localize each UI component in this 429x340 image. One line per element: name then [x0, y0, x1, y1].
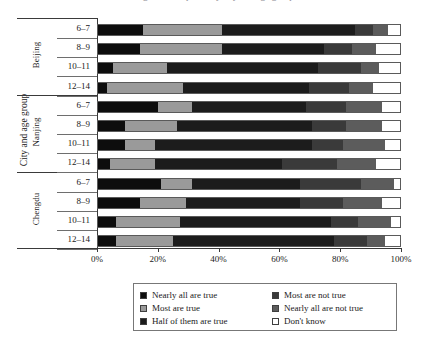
bar-segment [346, 102, 382, 112]
bar-segment [361, 63, 379, 73]
bar-segment [98, 44, 140, 54]
bar-segment [98, 63, 113, 73]
bar-segment [98, 121, 125, 131]
age-row-divider [57, 249, 97, 250]
bar-segment [376, 159, 400, 169]
bar-segment [140, 44, 222, 54]
age-row-divider [57, 230, 97, 231]
legend-column-1: Nearly all are true Most are true Half o… [140, 289, 227, 328]
age-row-divider [57, 76, 97, 77]
bar-segment [379, 63, 400, 73]
bar-segment [125, 121, 176, 131]
bar-segment [334, 236, 367, 246]
city-label: Beijing [31, 15, 41, 95]
bar-segment [180, 217, 331, 227]
legend-item-label: Nearly all are not true [284, 304, 363, 313]
bar-segment [98, 198, 140, 208]
bar-segment [98, 102, 158, 112]
age-row-divider [57, 134, 97, 135]
bar-segment [382, 121, 400, 131]
age-row-divider [57, 57, 97, 58]
bar-row [97, 24, 401, 36]
age-row-divider [57, 153, 97, 154]
city-group-divider [17, 18, 97, 19]
legend-swatch-icon [140, 318, 147, 325]
bar-segment [349, 83, 373, 93]
age-group-label: 10–11 [52, 138, 90, 148]
legend-swatch-icon [140, 305, 147, 312]
age-row-divider [57, 96, 97, 97]
chart-title: Figure: Perceptions by city and age grou… [0, 0, 429, 1]
bar-segment [116, 236, 173, 246]
bar-row [97, 101, 401, 113]
bar-segment [355, 25, 373, 35]
bar-segment [391, 217, 400, 227]
legend-item-label: Half of them are true [152, 317, 227, 326]
bar-segment [300, 179, 360, 189]
age-group-label: 12–14 [52, 234, 90, 244]
x-axis-label: 40% [199, 254, 239, 264]
bar-segment [110, 159, 155, 169]
x-axis-label: 20% [138, 254, 178, 264]
bar-segment [343, 198, 382, 208]
bar-segment [222, 44, 325, 54]
x-axis-tick [158, 248, 159, 252]
age-group-label: 8–9 [52, 119, 90, 129]
bar-segment [158, 102, 191, 112]
x-axis-label: 80% [320, 254, 360, 264]
x-axis-label: 0% [77, 254, 117, 264]
bar-segment [155, 159, 282, 169]
bar-row [97, 178, 401, 190]
legend-item: Nearly all are true [140, 289, 227, 302]
legend-item: Most are true [140, 302, 227, 315]
bar-segment [312, 140, 342, 150]
bar-row [97, 43, 401, 55]
x-axis-tick [219, 248, 220, 252]
x-axis-tick [340, 248, 341, 252]
legend-item-label: Most are true [152, 304, 200, 313]
legend-swatch-icon [140, 292, 147, 299]
age-group-label: 6–7 [52, 177, 90, 187]
age-row-divider [57, 192, 97, 193]
legend-item-label: Most are not true [284, 291, 346, 300]
bar-segment [98, 25, 143, 35]
bar-segment [385, 140, 400, 150]
bar-segment [388, 25, 400, 35]
bar-segment [155, 140, 312, 150]
bar-segment [352, 44, 376, 54]
age-group-label: 12–14 [52, 157, 90, 167]
legend-item: Most are not true [272, 289, 363, 302]
bar-segment [192, 179, 301, 189]
bar-segment [98, 236, 116, 246]
bar-row [97, 235, 401, 247]
age-group-label: 10–11 [52, 215, 90, 225]
x-axis-tick [97, 248, 98, 252]
age-group-label: 10–11 [52, 61, 90, 71]
bar-segment [173, 236, 333, 246]
bar-segment [143, 25, 222, 35]
bar-segment [98, 217, 116, 227]
bar-segment [382, 102, 400, 112]
bar-segment [98, 159, 110, 169]
legend-item-label: Don't know [284, 317, 326, 326]
bar-segment [358, 217, 391, 227]
bar-row [97, 82, 401, 94]
city-label: Chengdu [31, 169, 41, 249]
bar-segment [318, 63, 360, 73]
legend-swatch-icon [272, 318, 279, 325]
bar-segment [361, 179, 394, 189]
bar-segment [382, 198, 400, 208]
bar-segment [183, 83, 310, 93]
bar-segment [394, 179, 400, 189]
bar-segment [300, 198, 342, 208]
legend-item: Don't know [272, 315, 363, 328]
bar-segment [98, 140, 125, 150]
bar-segment [192, 102, 307, 112]
bar-segment [107, 83, 183, 93]
bar-segment [373, 25, 388, 35]
bar-segment [376, 44, 400, 54]
legend-item: Half of them are true [140, 315, 227, 328]
legend: Nearly all are true Most are true Half o… [133, 283, 397, 331]
x-axis-line [97, 248, 401, 249]
age-group-label: 8–9 [52, 42, 90, 52]
